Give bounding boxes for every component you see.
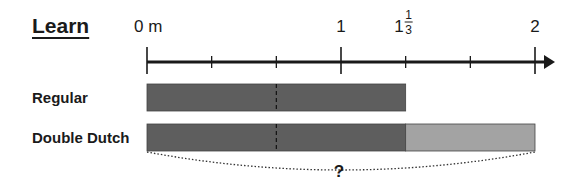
tick-label: 0 m xyxy=(134,17,162,36)
tick-label: 2 xyxy=(530,17,539,36)
mixed-number-whole: 1 xyxy=(394,17,403,36)
bar-segment-double-dutch xyxy=(406,124,535,151)
arrow-head-icon xyxy=(544,55,555,69)
fraction-denominator: 3 xyxy=(405,23,412,37)
number-line-diagram: 0 m11132 ? xyxy=(0,0,585,185)
unknown-total-label: ? xyxy=(334,162,344,181)
fraction-numerator: 1 xyxy=(405,8,412,22)
tick-label: 1 xyxy=(336,17,345,36)
